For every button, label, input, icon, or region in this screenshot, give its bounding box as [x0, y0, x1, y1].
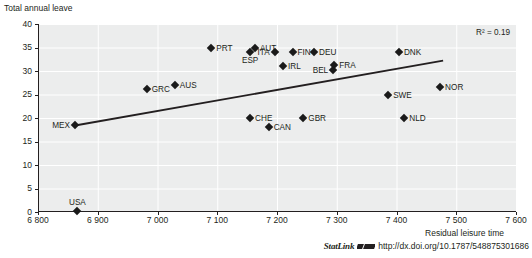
x-tick-label: 7 000: [147, 216, 168, 225]
x-tick-mark: [516, 212, 517, 215]
y-tick-label: 40: [4, 20, 32, 29]
x-tick-label: 7 100: [207, 216, 228, 225]
x-tick-label: 6 900: [87, 216, 108, 225]
y-tick-label: 30: [4, 67, 32, 76]
x-tick-label: 7 400: [386, 216, 407, 225]
statlink-label: StatLink: [324, 241, 354, 251]
y-tick-mark: [35, 165, 38, 166]
data-point-label: PRT: [216, 43, 232, 52]
x-tick-label: 6 800: [27, 216, 48, 225]
y-tick-mark: [35, 71, 38, 72]
x-tick-mark: [456, 212, 457, 215]
data-point-label: CAN: [274, 123, 291, 132]
y-axis-title: Total annual leave: [4, 3, 73, 13]
y-tick-label: 15: [4, 137, 32, 146]
statlink-arrow-icon: [357, 243, 375, 250]
y-tick-mark: [35, 48, 38, 49]
data-point-label: NOR: [445, 82, 463, 91]
statlink-url[interactable]: http://dx.doi.org/10.1787/548875301686: [378, 241, 529, 251]
y-tick-label: 25: [4, 90, 32, 99]
x-tick-mark: [38, 212, 39, 215]
plot-area: R² = 0.19 MEXUSAGRCAUSPRTESPAUTCHEITACAN…: [38, 24, 516, 212]
x-tick-label: 7 200: [266, 216, 287, 225]
data-point-label: BEL: [313, 65, 328, 74]
data-point-label: GRC: [152, 85, 170, 94]
data-point-label: FRA: [339, 60, 355, 69]
x-tick-mark: [397, 212, 398, 215]
y-tick-mark: [35, 24, 38, 25]
data-point-label: SWE: [393, 90, 412, 99]
x-tick-mark: [217, 212, 218, 215]
data-point-label: GBR: [308, 114, 326, 123]
data-point-label: USA: [69, 198, 86, 207]
statlink-footer: StatLink http://dx.doi.org/10.1787/54887…: [324, 241, 529, 251]
data-point-label: IRL: [288, 62, 301, 71]
data-point-label: ESP: [242, 56, 258, 65]
data-point-label: CHE: [255, 114, 272, 123]
x-tick-mark: [277, 212, 278, 215]
data-point-label: MEX: [52, 121, 70, 130]
r-squared-annotation: R² = 0.19: [476, 28, 510, 37]
y-tick-mark: [35, 189, 38, 190]
x-tick-mark: [337, 212, 338, 215]
data-point-label: ITA: [257, 48, 269, 57]
y-tick-mark: [35, 118, 38, 119]
y-tick-label: 10: [4, 161, 32, 170]
x-tick-label: 7 300: [326, 216, 347, 225]
x-tick-mark: [158, 212, 159, 215]
y-tick-mark: [35, 142, 38, 143]
data-point-label: DEU: [319, 47, 336, 56]
y-tick-label: 35: [4, 43, 32, 52]
x-tick-label: 7 500: [446, 216, 467, 225]
chart-figure: Total annual leave R² = 0.19 MEXUSAGRCAU…: [0, 0, 532, 258]
y-tick-label: 5: [4, 184, 32, 193]
x-tick-mark: [98, 212, 99, 215]
y-tick-mark: [35, 95, 38, 96]
data-point-label: DNK: [404, 48, 421, 57]
data-point-label: AUS: [180, 81, 197, 90]
x-axis-title: Residual leisure time: [425, 228, 504, 238]
data-point-label: NLD: [409, 114, 425, 123]
x-tick-label: 7 600: [505, 216, 526, 225]
y-tick-label: 20: [4, 114, 32, 123]
